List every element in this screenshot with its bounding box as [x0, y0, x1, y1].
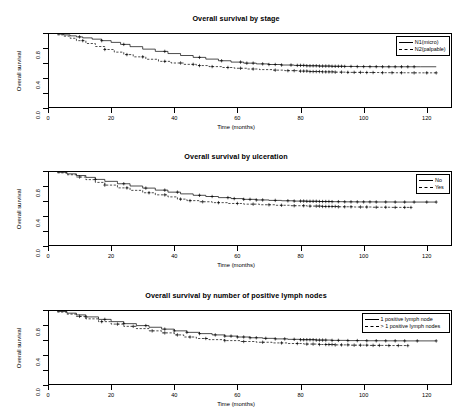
censor-tick [163, 188, 166, 191]
censor-tick [397, 344, 400, 347]
y-axis-tick [43, 201, 48, 202]
x-axis-tick-label: 120 [412, 115, 442, 121]
censor-tick [327, 343, 330, 346]
censor-tick [125, 186, 128, 189]
censor-tick [312, 338, 315, 341]
censor-tick [103, 48, 106, 51]
censor-tick [381, 65, 384, 68]
legend[interactable]: 1 positive lymph node> 1 positive lymph … [362, 313, 450, 333]
plot-area [48, 171, 452, 246]
x-axis-tick-label: 100 [349, 253, 379, 259]
censor-tick [81, 39, 84, 42]
x-axis-tick-label: 120 [412, 392, 442, 398]
legend-item[interactable]: Yes [419, 184, 446, 191]
x-axis-tick [237, 108, 238, 113]
censor-tick [359, 71, 362, 74]
x-axis-tick-label: 20 [96, 253, 126, 259]
x-axis-tick [301, 385, 302, 390]
x-axis-tick [427, 108, 428, 113]
censor-tick [239, 60, 242, 63]
legend[interactable]: N1(micro)N2(palpable) [396, 36, 450, 56]
legend-item[interactable]: > 1 positive lymph nodes [365, 323, 446, 330]
censor-tick [249, 336, 252, 339]
censor-tick [239, 67, 242, 70]
x-axis-tick-label: 120 [412, 253, 442, 259]
censor-tick [293, 204, 296, 207]
censor-tick [125, 53, 128, 56]
y-axis-title: Overall survival [14, 33, 24, 108]
censor-tick [280, 341, 283, 344]
legend[interactable]: NoYes [416, 174, 450, 194]
censor-tick [296, 64, 299, 67]
legend-label: N1(micro) [415, 39, 439, 46]
censor-tick [353, 71, 356, 74]
censor-tick [372, 71, 375, 74]
censor-tick [365, 71, 368, 74]
y-axis-title: Overall survival [14, 171, 24, 246]
censor-tick [331, 205, 334, 208]
censor-tick [122, 182, 125, 185]
censor-tick [252, 67, 255, 70]
x-axis-tick-label: 40 [159, 392, 189, 398]
y-axis-tick-label: 0.8 [35, 48, 41, 62]
censor-tick [343, 200, 346, 203]
censor-tick [267, 63, 270, 66]
censor-tick [305, 64, 308, 67]
censor-tick [198, 194, 201, 197]
x-axis-tick [301, 108, 302, 113]
censor-tick [331, 343, 334, 346]
x-axis-tick [427, 246, 428, 251]
legend-item[interactable]: 1 positive lymph node [365, 316, 446, 323]
censor-tick [132, 325, 135, 328]
censor-tick [331, 339, 334, 342]
censor-tick [384, 200, 387, 203]
dashed-line-icon [399, 46, 413, 53]
censor-tick [252, 202, 255, 205]
censor-tick [290, 63, 293, 66]
censor-tick [315, 338, 318, 341]
censor-tick [226, 196, 229, 199]
censor-tick [394, 339, 397, 342]
legend-item[interactable]: N1(micro) [399, 39, 446, 46]
survival-curve [48, 171, 436, 202]
censor-tick [350, 200, 353, 203]
censor-tick [299, 64, 302, 67]
censor-tick [280, 204, 283, 207]
censor-tick [173, 329, 176, 332]
x-axis-tick [174, 385, 175, 390]
censor-tick [245, 61, 248, 64]
censor-tick [261, 198, 264, 201]
censor-tick [346, 71, 349, 74]
x-axis-tick-label: 100 [349, 392, 379, 398]
censor-tick [340, 65, 343, 68]
censor-tick [359, 205, 362, 208]
x-axis-title: Time (months) [0, 124, 472, 130]
censor-tick [406, 344, 409, 347]
legend-item[interactable]: No [419, 177, 446, 184]
censor-tick [331, 70, 334, 73]
censor-tick [274, 199, 277, 202]
censor-tick [327, 70, 330, 73]
censor-tick [176, 333, 179, 336]
censor-tick [312, 64, 315, 67]
censor-tick [220, 59, 223, 62]
censor-tick [302, 338, 305, 341]
censor-tick [318, 343, 321, 346]
y-axis-tick [43, 171, 48, 172]
censor-tick [312, 200, 315, 203]
y-axis-tick-label: 0.4 [35, 78, 41, 92]
censor-tick [163, 331, 166, 334]
y-axis-tick [43, 216, 48, 217]
solid-line-icon [399, 39, 413, 46]
censor-tick [387, 344, 390, 347]
censor-tick [274, 337, 277, 340]
censor-tick [378, 344, 381, 347]
censor-tick [302, 204, 305, 207]
y-axis-tick [43, 78, 48, 79]
legend-item[interactable]: N2(palpable) [399, 46, 446, 53]
y-axis-tick [43, 231, 48, 232]
legend-label: > 1 positive lymph nodes [381, 323, 440, 330]
censor-tick [375, 206, 378, 209]
legend-label: 1 positive lymph node [381, 316, 433, 323]
censor-tick [318, 338, 321, 341]
